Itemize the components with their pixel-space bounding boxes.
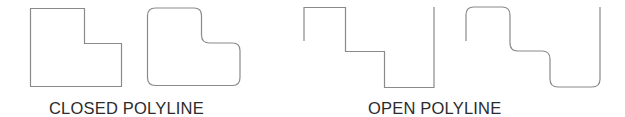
open-polyline-sharp <box>304 7 434 88</box>
closed-polyline-rounded <box>148 8 241 86</box>
open-polyline-caption: OPEN POLYLINE <box>368 99 501 117</box>
open-polyline-rounded <box>466 7 600 87</box>
closed-polyline-sharp <box>31 9 122 87</box>
closed-polyline-caption: CLOSED POLYLINE <box>49 99 204 117</box>
